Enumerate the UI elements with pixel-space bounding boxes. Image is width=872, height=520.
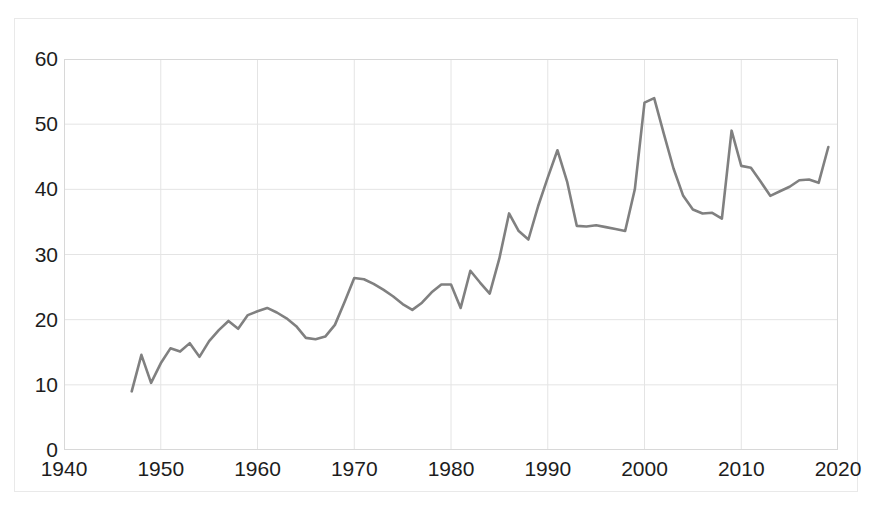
y-axis-tick-labels: 6050403020100 <box>6 0 58 520</box>
data-line-1 <box>132 98 829 391</box>
y-tick-label: 50 <box>12 113 58 134</box>
x-tick-label: 2020 <box>793 458 872 479</box>
x-tick-label: 2000 <box>600 458 690 479</box>
plot-area <box>64 59 838 450</box>
x-tick-label: 1960 <box>213 458 303 479</box>
y-tick-label: 40 <box>12 178 58 199</box>
x-tick-label: 1990 <box>503 458 593 479</box>
plot-svg <box>64 59 838 450</box>
x-tick-label: 1940 <box>19 458 109 479</box>
x-axis-tick-labels: 194019501960197019801990200020102020 <box>0 458 872 498</box>
x-tick-label: 1980 <box>406 458 496 479</box>
x-tick-label: 1970 <box>309 458 399 479</box>
x-tick-label: 1950 <box>116 458 206 479</box>
y-tick-label: 30 <box>12 244 58 265</box>
y-tick-label: 60 <box>12 48 58 69</box>
x-tick-label: 2010 <box>696 458 786 479</box>
data-series-layer <box>132 98 829 391</box>
gridlines <box>64 59 838 450</box>
y-tick-label: 10 <box>12 374 58 395</box>
y-tick-label: 20 <box>12 309 58 330</box>
line-chart: 6050403020100 19401950196019701980199020… <box>0 0 872 520</box>
